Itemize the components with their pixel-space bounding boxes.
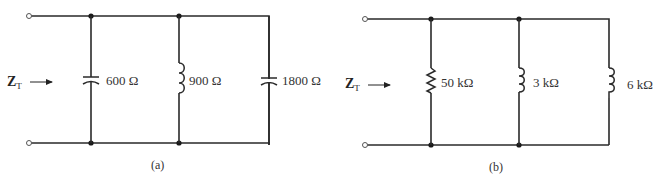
top-rail-a [31,16,269,145]
terminal-bottom-a [27,141,32,146]
branch-label-a2: 900 Ω [189,73,221,88]
bottom-rail-a [31,143,269,145]
top-rail-b [367,19,609,145]
resistor-icon [427,19,435,145]
capacitor-icon [83,16,99,143]
terminal-bottom-b [363,143,368,148]
inductor-icon [519,19,524,145]
inductor-icon [605,68,614,98]
branch-label-b2: 3 kΩ [533,75,559,90]
zt-label-a: ZT [7,74,22,91]
branch-label-b1: 50 kΩ [441,75,473,90]
terminal-top-a [27,14,32,19]
branch-label-a3: 1800 Ω [282,73,321,88]
branch-label-a1: 600 Ω [106,73,138,88]
caption-a: (a) [151,158,164,172]
branch-label-b3: 6 kΩ [627,77,653,92]
inductor-icon [179,16,184,143]
zt-label-b: ZT [345,76,360,93]
circuit-a: 600 Ω 900 Ω 1800 Ω ZT (a) [7,13,321,172]
caption-b: (b) [489,160,503,174]
terminal-top-b [363,17,368,22]
circuit-b: 50 kΩ 3 kΩ 6 kΩ ZT (b) [345,16,653,174]
